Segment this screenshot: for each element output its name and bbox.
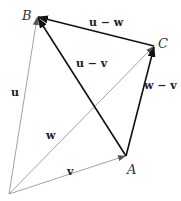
vector-label-w-minus-v: w − v	[143, 79, 177, 92]
vector-w-minus-v	[126, 47, 154, 156]
point-label-b: B	[21, 8, 32, 23]
vector-label-u: u	[11, 86, 19, 99]
point-label-a: A	[126, 162, 136, 177]
vector-u	[9, 18, 37, 194]
vector-label-w: w	[45, 129, 56, 142]
point-label-c: C	[158, 36, 168, 51]
vector-label-v: v	[66, 165, 74, 178]
vector-label-u-minus-v: u − v	[76, 57, 108, 70]
vector-diagram: B C A u w v u − w u − v w − v	[0, 0, 181, 201]
vector-label-u-minus-w: u − w	[89, 16, 124, 29]
